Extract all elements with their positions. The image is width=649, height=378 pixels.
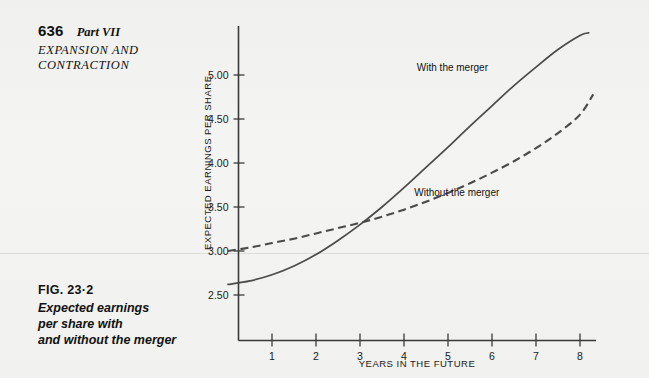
y-tick-label: 2.50 — [208, 289, 229, 301]
line-chart: 2.503.003.504.004.505.00 12345678 EXPECT… — [0, 0, 649, 378]
series-line-without-the-merger — [228, 94, 593, 251]
series-label-without-the-merger: Without the merger — [414, 187, 500, 198]
y-axis-title: EXPECTED EARNINGS PER SHARE — [202, 75, 213, 250]
series-annotations: With the mergerWithout the merger — [414, 62, 500, 199]
x-axis-title: YEARS IN THE FUTURE — [359, 358, 475, 369]
series-line-with-the-merger — [228, 33, 589, 285]
series-label-with-the-merger: With the merger — [417, 62, 489, 73]
x-tick-label: 6 — [489, 350, 495, 362]
series-paths — [228, 33, 593, 285]
x-tick-label: 7 — [533, 350, 539, 362]
x-tick-label: 2 — [313, 350, 319, 362]
x-tick-label: 8 — [577, 350, 583, 362]
x-tick-label: 1 — [269, 350, 275, 362]
